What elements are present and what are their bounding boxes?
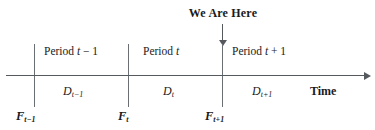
time-axis-caption: Time bbox=[310, 85, 336, 97]
forecast-subscript-next: t+1 bbox=[213, 115, 224, 124]
forecast-label-previous: Ft−1 bbox=[16, 110, 35, 124]
demand-subscript-next: t+1 bbox=[261, 90, 273, 99]
we-are-here-arrow-stem bbox=[222, 24, 223, 41]
time-axis-line bbox=[6, 75, 366, 76]
period-label-next: Period t + 1 bbox=[232, 46, 286, 58]
period-label-current-var: t bbox=[176, 45, 179, 57]
period-label-next-suffix: + 1 bbox=[268, 45, 286, 57]
forecast-subscript-previous: t−1 bbox=[24, 115, 35, 124]
period-label-next-prefix: Period bbox=[232, 45, 265, 57]
demand-subscript-current: t bbox=[172, 90, 174, 99]
period-label-current: Period t bbox=[143, 46, 179, 58]
demand-label-next: Dt+1 bbox=[252, 85, 272, 99]
period-label-previous: Period t − 1 bbox=[44, 46, 98, 58]
period-label-current-prefix: Period bbox=[143, 45, 176, 57]
forecast-label-current: Ft bbox=[118, 110, 129, 124]
timeline-diagram: We Are Here Period t − 1 Period t Period… bbox=[0, 0, 375, 130]
demand-symbol-next: D bbox=[252, 84, 261, 98]
forecast-subscript-current: t bbox=[126, 115, 128, 124]
period-label-previous-prefix: Period bbox=[44, 45, 77, 57]
period-label-previous-suffix: − 1 bbox=[80, 45, 98, 57]
arrow-right-icon bbox=[364, 72, 371, 80]
demand-label-current: Dt bbox=[163, 85, 174, 99]
demand-symbol-current: D bbox=[163, 84, 172, 98]
we-are-here-label: We Are Here bbox=[163, 6, 283, 21]
demand-symbol-previous: D bbox=[63, 84, 72, 98]
demand-label-previous: Dt−1 bbox=[63, 85, 83, 99]
forecast-label-next: Ft+1 bbox=[205, 110, 224, 124]
demand-subscript-previous: t−1 bbox=[72, 90, 84, 99]
